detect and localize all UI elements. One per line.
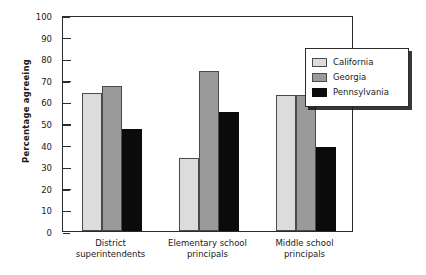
y-tick-label: 90 bbox=[41, 33, 52, 45]
x-axis-group-label-line: superintendents bbox=[62, 249, 159, 260]
x-axis-group-label: Middle schoolprincipals bbox=[256, 238, 353, 260]
x-axis-group-label-line: Elementary school bbox=[159, 238, 256, 249]
legend-item: Pennsylvania bbox=[312, 85, 401, 100]
legend-label-california: California bbox=[333, 57, 373, 68]
y-tick-mark-inner bbox=[63, 211, 71, 212]
x-axis-group-label: Districtsuperintendents bbox=[62, 238, 159, 260]
bar bbox=[179, 158, 199, 231]
y-tick-mark-inner bbox=[63, 189, 71, 190]
bar bbox=[316, 147, 336, 231]
bar bbox=[122, 129, 142, 231]
y-tick-label: 60 bbox=[41, 97, 52, 109]
bar bbox=[102, 86, 122, 231]
y-tick-label: 100 bbox=[36, 11, 52, 23]
bar bbox=[219, 112, 239, 231]
y-tick-mark-inner bbox=[63, 38, 71, 39]
legend-label-georgia: Georgia bbox=[333, 72, 366, 83]
x-axis-group-label-line: principals bbox=[256, 249, 353, 260]
legend: California Georgia Pennsylvania bbox=[305, 48, 409, 107]
bar bbox=[82, 93, 102, 231]
bar bbox=[296, 95, 316, 231]
y-tick-mark-inner bbox=[63, 81, 71, 82]
y-axis-title: Percentage agreeing bbox=[21, 41, 31, 181]
legend-swatch-california bbox=[312, 58, 327, 67]
y-tick-label: 80 bbox=[41, 54, 52, 66]
legend-swatch-georgia bbox=[312, 73, 327, 82]
x-axis-group-label: Elementary schoolprincipals bbox=[159, 238, 256, 260]
y-tick-mark-inner bbox=[63, 124, 71, 125]
legend-label-pennsylvania: Pennsylvania bbox=[333, 87, 389, 98]
bar bbox=[276, 95, 296, 231]
x-axis-group-label-line: principals bbox=[159, 249, 256, 260]
y-tick-label: 30 bbox=[41, 162, 52, 174]
y-tick-label: 10 bbox=[41, 205, 52, 217]
x-axis-group-label-line: District bbox=[62, 238, 159, 249]
y-tick-label: 0 bbox=[47, 227, 52, 239]
y-tick-label: 20 bbox=[41, 184, 52, 196]
legend-item: California bbox=[312, 55, 401, 70]
y-tick-label: 70 bbox=[41, 76, 52, 88]
x-axis-group-label-line: Middle school bbox=[256, 238, 353, 249]
bar bbox=[199, 71, 219, 231]
y-tick-label: 50 bbox=[41, 119, 52, 131]
y-tick-mark bbox=[63, 17, 70, 18]
y-tick-mark-inner bbox=[63, 60, 71, 61]
y-tick-label: 40 bbox=[41, 141, 52, 153]
legend-swatch-pennsylvania bbox=[312, 88, 327, 97]
legend-item: Georgia bbox=[312, 70, 401, 85]
y-tick-mark-inner bbox=[63, 168, 71, 169]
y-tick-mark-inner bbox=[63, 146, 71, 147]
y-tick-mark-inner bbox=[63, 103, 71, 104]
bar-chart-figure: Percentage agreeing 01020304050607080901… bbox=[0, 0, 426, 275]
y-tick-mark bbox=[63, 233, 70, 234]
